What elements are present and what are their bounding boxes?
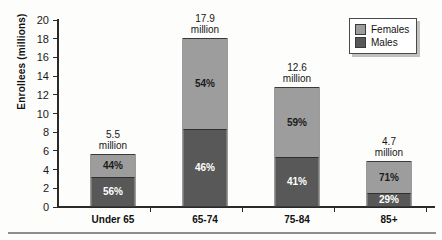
bar-total-label: 17.9 million xyxy=(191,13,219,35)
y-axis-title: Enrollees (millions) xyxy=(16,0,27,127)
legend-label-females: Females xyxy=(371,24,409,35)
segment-females[interactable]: 54% xyxy=(184,39,227,129)
segment-percent-label: 71% xyxy=(379,173,399,183)
y-tick-label: 2 xyxy=(43,182,53,194)
y-tick-label: 12 xyxy=(37,89,53,101)
x-tick-mark-3 xyxy=(334,208,335,212)
segment-females[interactable]: 71% xyxy=(368,162,411,193)
y-tick-4: 4 xyxy=(43,164,57,176)
bar-stack: 71% 29% xyxy=(367,161,412,207)
bar-group-under-65[interactable]: 5.5 million 44% 56% xyxy=(91,154,136,207)
bar-total-unit: million xyxy=(99,140,127,151)
segment-percent-label: 54% xyxy=(195,79,215,89)
legend: Females Males xyxy=(349,18,417,54)
segment-females[interactable]: 44% xyxy=(92,155,135,177)
bar-total-value: 4.7 xyxy=(382,136,396,147)
y-tick-label: 20 xyxy=(37,14,53,26)
bar-total-value: 5.5 xyxy=(106,129,120,140)
bar-group-85-plus[interactable]: 4.7 million 71% 29% xyxy=(367,161,412,207)
y-tick-label: 4 xyxy=(43,164,53,176)
bar-total-unit: million xyxy=(375,147,403,158)
y-tick-0: 0 xyxy=(43,201,57,213)
x-axis-label-65-74: 65-74 xyxy=(192,214,218,225)
bar-group-65-74[interactable]: 17.9 million 54% 46% xyxy=(183,38,228,207)
y-tick-8: 8 xyxy=(43,126,57,138)
y-tick-mark xyxy=(53,38,57,39)
x-axis-label-85-plus: 85+ xyxy=(381,214,398,225)
segment-percent-label: 44% xyxy=(103,161,123,171)
y-tick-2: 2 xyxy=(43,182,57,194)
y-tick-label: 0 xyxy=(43,201,53,213)
y-tick-mark xyxy=(53,169,57,170)
bottom-divider xyxy=(8,232,436,234)
x-tick-mark-1 xyxy=(150,208,151,212)
y-tick-label: 8 xyxy=(43,126,53,138)
x-axis-label-under-65: Under 65 xyxy=(92,214,135,225)
segment-males[interactable]: 41% xyxy=(276,157,319,206)
segment-percent-label: 59% xyxy=(287,118,307,128)
bar-total-label: 4.7 million xyxy=(375,136,403,158)
x-tick-mark-2 xyxy=(242,208,243,212)
segment-percent-label: 29% xyxy=(379,195,399,205)
y-tick-label: 14 xyxy=(37,70,53,82)
y-tick-12: 12 xyxy=(37,89,57,101)
y-tick-label: 18 xyxy=(37,33,53,45)
y-tick-10: 10 xyxy=(37,108,57,120)
bar-total-unit: million xyxy=(283,73,311,84)
y-tick-18: 18 xyxy=(37,33,57,45)
legend-swatch-females-icon xyxy=(355,24,366,35)
legend-item-females[interactable]: Females xyxy=(355,23,409,36)
segment-males[interactable]: 29% xyxy=(368,193,411,206)
y-tick-20: 20 xyxy=(37,14,57,26)
x-axis-label-75-84: 75-84 xyxy=(284,214,310,225)
segment-males[interactable]: 56% xyxy=(92,177,135,206)
y-tick-14: 14 xyxy=(37,70,57,82)
segment-females[interactable]: 59% xyxy=(276,88,319,157)
y-tick-mark xyxy=(53,132,57,133)
bar-stack: 44% 56% xyxy=(91,154,136,207)
bar-total-unit: million xyxy=(191,24,219,35)
y-tick-16: 16 xyxy=(37,51,57,63)
legend-item-males[interactable]: Males xyxy=(355,36,409,49)
bar-total-label: 12.6 million xyxy=(283,62,311,84)
legend-swatch-males-icon xyxy=(355,37,366,48)
y-tick-6: 6 xyxy=(43,145,57,157)
y-tick-mark xyxy=(53,57,57,58)
y-tick-mark xyxy=(53,188,57,189)
segment-percent-label: 56% xyxy=(103,187,123,197)
segment-percent-label: 46% xyxy=(195,163,215,173)
bar-stack: 59% 41% xyxy=(275,87,320,207)
y-tick-label: 16 xyxy=(37,51,53,63)
y-tick-mark xyxy=(53,94,57,95)
bar-total-value: 17.9 xyxy=(195,13,214,24)
segment-percent-label: 41% xyxy=(287,177,307,187)
stacked-bar-chart: Enrollees (millions) 20 18 16 14 12 10 8… xyxy=(0,0,442,240)
legend-label-males: Males xyxy=(371,37,398,48)
bar-total-label: 5.5 million xyxy=(99,129,127,151)
bar-stack: 54% 46% xyxy=(183,38,228,207)
y-tick-mark xyxy=(53,20,57,21)
bar-group-75-84[interactable]: 12.6 million 59% 41% xyxy=(275,87,320,207)
y-tick-mark xyxy=(53,76,57,77)
y-tick-mark xyxy=(53,207,57,208)
y-tick-label: 6 xyxy=(43,145,53,157)
y-tick-mark xyxy=(53,113,57,114)
segment-males[interactable]: 46% xyxy=(184,129,227,206)
bar-total-value: 12.6 xyxy=(287,62,306,73)
y-tick-mark xyxy=(53,150,57,151)
y-tick-label: 10 xyxy=(37,108,53,120)
x-tick-mark-4 xyxy=(426,208,427,212)
